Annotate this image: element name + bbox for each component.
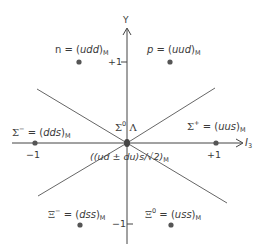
particle-eq: = ( xyxy=(61,44,80,55)
particle-label-p: p = (uud)M xyxy=(147,45,201,57)
center-quark-expression: ((ud ± du)s/√2) xyxy=(90,151,163,162)
particle-quarks: udd xyxy=(80,44,99,55)
particle-label-n: n = (udd)M xyxy=(55,45,109,57)
particle-eq: = ( xyxy=(25,127,44,138)
center-lambda-symbol: Λ xyxy=(126,122,136,133)
particle-dot-sigma-minus xyxy=(32,140,37,145)
particle-eq: = ( xyxy=(153,44,172,55)
particle-quarks: uus xyxy=(218,121,236,132)
particle-label-xi-zero: Ξ0 = (uss)M xyxy=(145,208,201,222)
particle-dot-center xyxy=(124,139,130,147)
y-axis-label: Y xyxy=(123,16,129,25)
y-tick-label-minus-1: −1 xyxy=(112,219,126,229)
particle-sub: M xyxy=(196,214,202,222)
particle-quarks: uud xyxy=(172,44,191,55)
particle-label-sigma-minus: Σ− = (dds)M xyxy=(12,126,71,140)
particle-dot-n xyxy=(76,59,81,64)
particle-symbol: Ξ xyxy=(145,209,152,220)
particle-sub: M xyxy=(103,49,109,57)
particle-dot-xi-minus xyxy=(77,222,82,227)
particle-eq: = ( xyxy=(156,209,175,220)
center-label-quark-content: ((ud ± du)s/√2)M xyxy=(90,152,169,164)
particle-dot-sigma-plus xyxy=(213,140,218,145)
particle-dot-xi-zero xyxy=(168,222,173,227)
particle-label-xi-minus: Ξ− = (dss)M xyxy=(48,208,105,222)
particle-quarks: dds xyxy=(43,127,61,138)
particle-eq: = ( xyxy=(61,209,80,220)
i3-axis-label: I3 xyxy=(245,138,252,150)
particle-symbol: Ξ xyxy=(48,209,55,220)
y-tick-label-plus-1: +1 xyxy=(108,57,122,67)
particle-sub: M xyxy=(240,126,246,134)
center-label-sigma0-lambda: Σ0 Λ xyxy=(115,121,137,133)
diagonal-line-upper-right xyxy=(127,88,215,143)
i3-axis-label-sub: 3 xyxy=(248,142,252,150)
particle-sub: M xyxy=(65,132,71,140)
particle-quarks: dss xyxy=(79,209,96,220)
particle-label-sigma-plus: Σ+ = (uus)M xyxy=(187,120,246,134)
x-tick-label-minus-1: −1 xyxy=(26,150,40,160)
particle-sub: M xyxy=(195,49,201,57)
particle-dot-p xyxy=(167,59,172,64)
particle-sub: M xyxy=(100,214,106,222)
particle-quarks: uss xyxy=(175,209,192,220)
center-quark-sub: M xyxy=(163,156,169,164)
x-tick-label-plus-1: +1 xyxy=(207,150,221,160)
particle-eq: = ( xyxy=(200,121,219,132)
